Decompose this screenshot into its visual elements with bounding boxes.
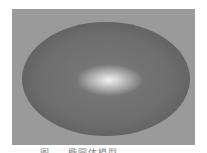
ellipsoid-render — [22, 22, 190, 136]
figure-caption: 图 … 椭圆体模型 — [40, 146, 170, 153]
